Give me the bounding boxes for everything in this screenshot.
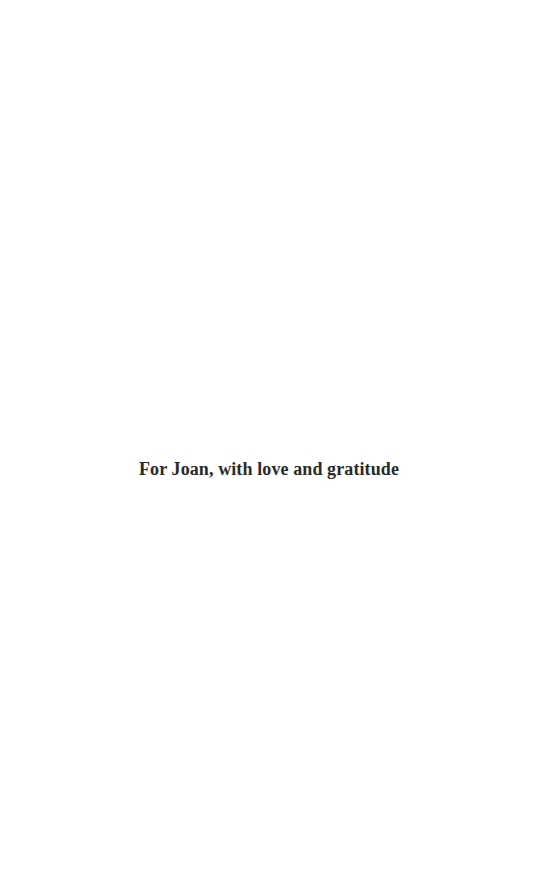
- dedication-text: For Joan, with love and gratitude: [139, 458, 399, 480]
- dedication-page: For Joan, with love and gratitude: [0, 0, 560, 883]
- dedication-block: For Joan, with love and gratitude: [0, 440, 538, 498]
